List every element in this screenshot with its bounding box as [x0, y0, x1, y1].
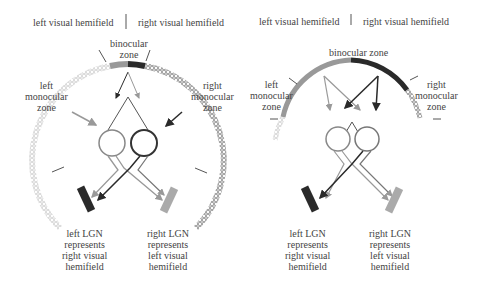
- binocular-zone-label: binocular zone: [110, 38, 148, 60]
- right-panel: [270, 14, 441, 213]
- left-hemifield-label: left visual hemifield: [33, 17, 114, 28]
- right-lgn-bar: [160, 187, 178, 214]
- left-eye-icon: [99, 130, 125, 156]
- left-lgn-bar: [77, 186, 95, 213]
- left-hemifield-label: left visual hemifield: [259, 16, 340, 27]
- binocular-zone-label: binocular zone: [329, 47, 388, 58]
- left-lgn-bar: [301, 186, 319, 213]
- left-eye-icon: [326, 127, 350, 151]
- right-eye-icon: [131, 130, 157, 156]
- binocular-left-arc: [283, 60, 351, 117]
- right-monocular-label: right monocular zone: [191, 80, 234, 113]
- right-eye-icon: [355, 127, 379, 151]
- right-lgn-label: right LGN represents left visual hemifie…: [369, 228, 411, 272]
- left-monocular-label: left monocular zone: [25, 80, 68, 113]
- left-monocular-arc: [275, 117, 283, 140]
- binocular-right-arc: [351, 60, 407, 90]
- binocular-right-arc: [128, 64, 145, 66]
- right-lgn-label: right LGN represents left visual hemifie…: [147, 228, 189, 272]
- right-hemifield-label: right visual hemifield: [138, 17, 224, 28]
- left-lgn-label: left LGN represents right visual hemifie…: [62, 228, 107, 272]
- right-hemifield-label: right visual hemifield: [363, 16, 449, 27]
- right-monocular-label: right monocular zone: [415, 79, 458, 112]
- left-monocular-label: left monocular zone: [250, 79, 293, 112]
- left-lgn-label: left LGN represents right visual hemifie…: [285, 228, 330, 272]
- binocular-left-arc: [110, 64, 128, 66]
